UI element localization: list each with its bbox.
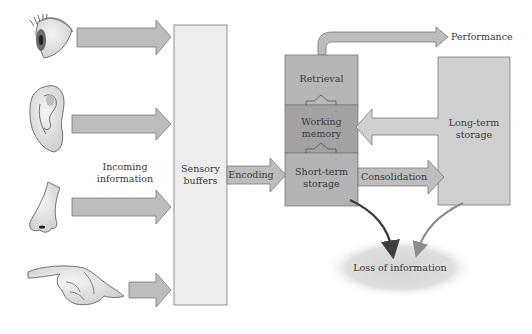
eye-icon [30, 14, 73, 58]
working-memory-label: Working memory [285, 116, 358, 140]
short-term-line-2: storage [285, 178, 358, 190]
encoding-label: Encoding [228, 169, 274, 181]
ear-icon [30, 86, 64, 152]
loss-of-information-label: Loss of information [345, 262, 455, 274]
pointing-hand-icon [28, 266, 124, 305]
ear-to-sensory-arrow [72, 108, 171, 140]
retrieval-label: Retrieval [285, 73, 358, 85]
sensory-line-2: buffers [174, 175, 227, 187]
working-line-1: Working [285, 116, 358, 128]
nose-icon [30, 182, 60, 232]
long-term-line-1: Long-term [438, 117, 510, 129]
incoming-information-label: Incoming information [85, 161, 165, 185]
memory-model-diagram [0, 0, 532, 334]
sensory-buffers-label: Sensory buffers [174, 163, 227, 187]
finger-to-sensory-arrow [129, 273, 171, 307]
sensory-line-1: Sensory [174, 163, 227, 175]
short-term-storage-label: Short-term storage [285, 166, 358, 190]
long-term-line-2: storage [438, 129, 510, 141]
incoming-line-1: Incoming [85, 161, 165, 173]
performance-arrow [318, 27, 448, 55]
long-term-storage-label: Long-term storage [438, 117, 510, 141]
working-line-2: memory [285, 128, 358, 140]
performance-label: Performance [451, 31, 513, 43]
short-term-line-1: Short-term [285, 166, 358, 178]
nose-to-sensory-arrow [72, 190, 171, 224]
consolidation-label: Consolidation [358, 171, 430, 183]
incoming-line-2: information [85, 173, 165, 185]
eye-to-sensory-arrow [77, 20, 171, 55]
